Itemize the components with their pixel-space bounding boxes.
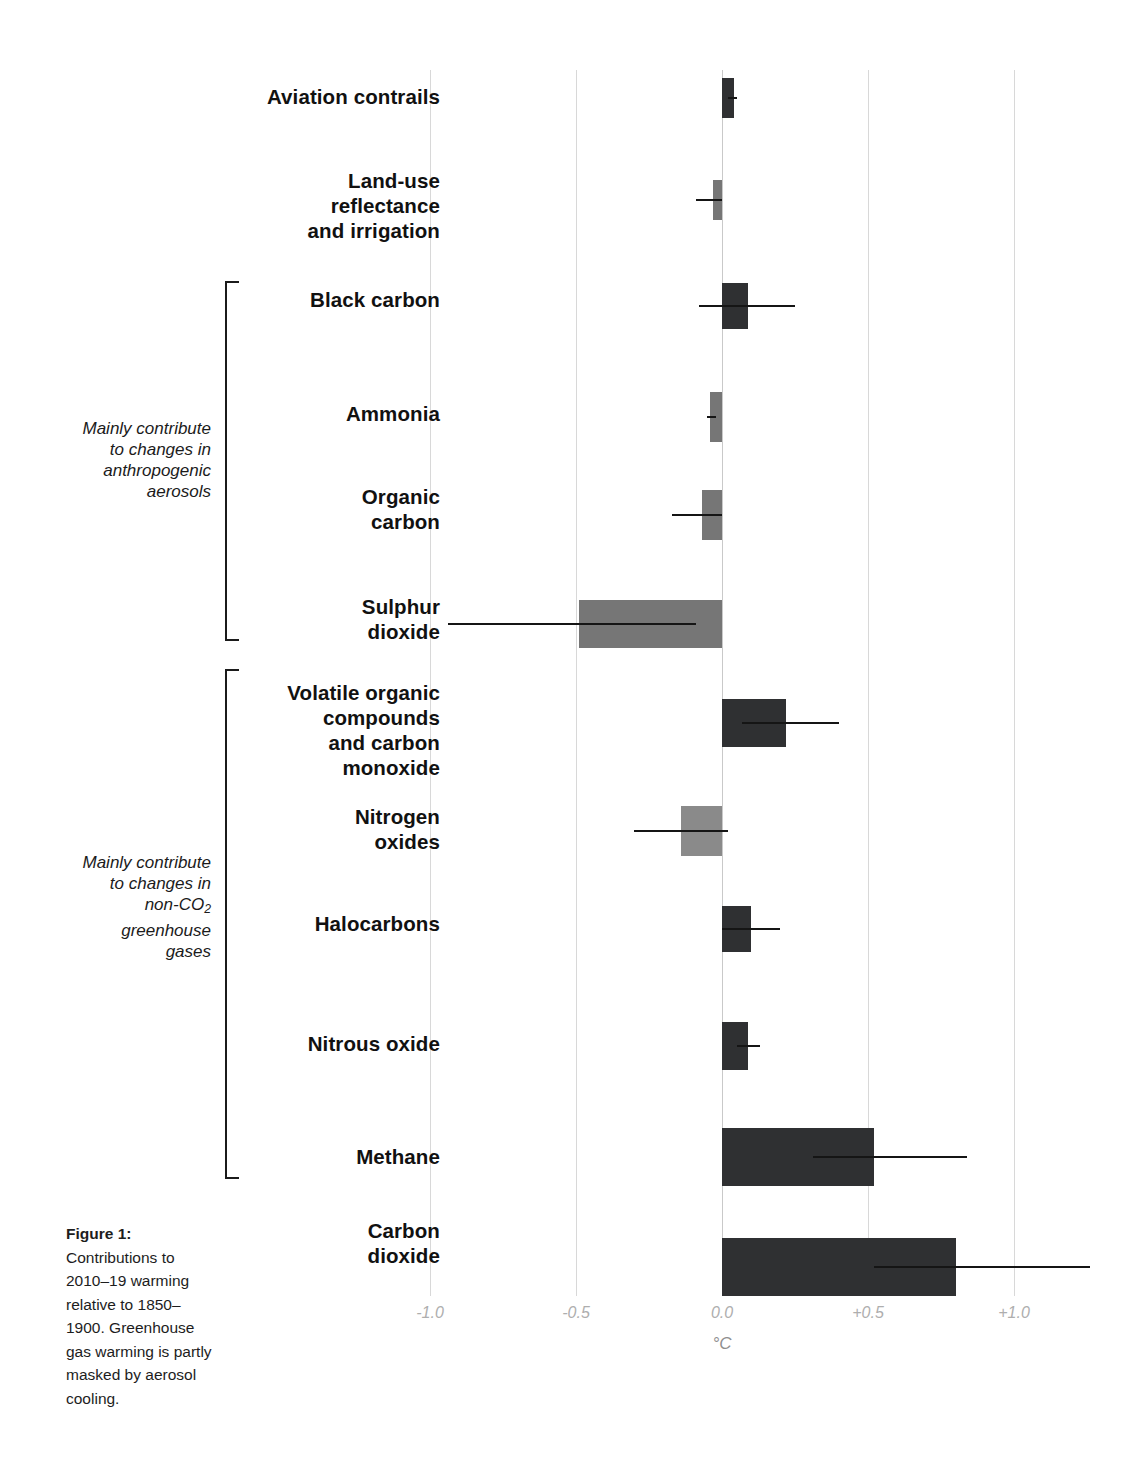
figure-contributions-to-warming: -1.0-0.50.0+0.5+1.0°CAviation contrailsL… <box>0 0 1148 1458</box>
error-bar-nitrous-oxide <box>737 1045 760 1047</box>
caption-title: Figure 1: <box>66 1222 216 1246</box>
row-label-methane: Methane <box>356 1144 440 1169</box>
gridline-0.0 <box>722 70 723 1296</box>
row-label-line: Ammonia <box>346 402 440 425</box>
group-label-line: aerosols <box>147 482 211 501</box>
group-label-line: gases <box>166 942 211 961</box>
group-label-aerosols: Mainly contribute to changes in anthropo… <box>45 418 211 502</box>
row-label-nitrogen-oxides: Nitrogenoxides <box>355 804 440 854</box>
row-label-sulphur-dioxide: Sulphurdioxide <box>362 594 440 644</box>
group-bracket-aerosols <box>225 281 239 641</box>
axis-tick-label: +1.0 <box>998 1304 1030 1322</box>
axis-tick-label: 0.0 <box>711 1304 733 1322</box>
row-label-organic-carbon: Organiccarbon <box>362 484 440 534</box>
row-label-line: reflectance <box>331 194 440 217</box>
row-label-line: Sulphur <box>362 595 440 618</box>
group-label-line: Mainly contribute <box>82 419 211 438</box>
error-bar-halocarbons <box>722 928 780 930</box>
row-label-line: Methane <box>356 1145 440 1168</box>
error-bar-carbon-dioxide <box>874 1266 1090 1268</box>
row-label-line: Nitrogen <box>355 805 440 828</box>
group-label-line: to changes in <box>110 874 211 893</box>
group-label-line: to changes in <box>110 440 211 459</box>
gridline-+1.0 <box>1014 70 1015 1296</box>
error-bar-volatile-organic-compounds-and-carbon-monoxide <box>742 722 838 724</box>
row-label-land-use-reflectance-and-irrigation: Land-usereflectanceand irrigation <box>308 168 440 243</box>
caption-body: Contributions to 2010–19 warming relativ… <box>66 1246 216 1411</box>
error-bar-black-carbon <box>699 305 795 307</box>
row-label-line: dioxide <box>368 620 440 643</box>
group-label-line: Mainly contribute <box>82 853 211 872</box>
axis-tick-label: -0.5 <box>562 1304 590 1322</box>
row-label-line: monoxide <box>342 756 440 779</box>
row-label-line: and carbon <box>329 731 441 754</box>
row-label-volatile-organic-compounds-and-carbon-monoxide: Volatile organiccompoundsand carbonmonox… <box>287 680 440 780</box>
figure-caption: Figure 1: Contributions to 2010–19 warmi… <box>66 1222 216 1410</box>
row-label-line: Organic <box>362 485 440 508</box>
group-label-line-nonco2: non-CO2 <box>145 895 211 914</box>
error-bar-land-use-reflectance-and-irrigation <box>696 199 722 201</box>
axis-tick-label: +0.5 <box>852 1304 884 1322</box>
error-bar-organic-carbon <box>672 514 722 516</box>
row-label-line: compounds <box>323 706 440 729</box>
group-label-line: greenhouse <box>121 921 211 940</box>
group-bracket-ghg <box>225 669 239 1179</box>
row-label-aviation-contrails: Aviation contrails <box>267 84 440 109</box>
error-bar-methane <box>813 1156 968 1158</box>
gridline--0.5 <box>576 70 577 1296</box>
row-label-line: dioxide <box>368 1244 440 1267</box>
gridline-+0.5 <box>868 70 869 1296</box>
row-label-black-carbon: Black carbon <box>310 287 440 312</box>
row-label-line: carbon <box>371 510 440 533</box>
row-label-line: Carbon <box>368 1219 440 1242</box>
axis-unit-label: °C <box>712 1334 731 1354</box>
error-bar-ammonia <box>707 416 716 418</box>
error-bar-aviation-contrails <box>728 97 737 99</box>
row-label-line: Halocarbons <box>315 912 440 935</box>
axis-tick-label: -1.0 <box>416 1304 444 1322</box>
error-bar-nitrogen-oxides <box>634 830 727 832</box>
row-label-line: oxides <box>374 830 440 853</box>
group-label-ghg: Mainly contribute to changes in non-CO2 … <box>45 852 211 962</box>
row-label-line: and irrigation <box>308 219 440 242</box>
row-label-line: Land-use <box>348 169 440 192</box>
row-label-line: Black carbon <box>310 288 440 311</box>
row-label-line: Nitrous oxide <box>308 1032 440 1055</box>
group-label-line: anthropogenic <box>103 461 211 480</box>
row-label-line: Aviation contrails <box>267 85 440 108</box>
row-label-line: Volatile organic <box>287 681 440 704</box>
row-label-nitrous-oxide: Nitrous oxide <box>308 1031 440 1056</box>
row-label-halocarbons: Halocarbons <box>315 911 440 936</box>
error-bar-sulphur-dioxide <box>448 623 696 625</box>
row-label-ammonia: Ammonia <box>346 401 440 426</box>
row-label-carbon-dioxide: Carbondioxide <box>368 1218 440 1268</box>
